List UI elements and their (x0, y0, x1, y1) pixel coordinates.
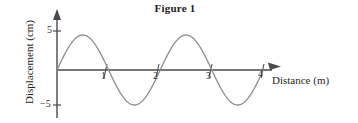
y-axis-title: Displacement (cm) (23, 6, 35, 118)
x-axis-arrowhead (268, 63, 281, 71)
y-tick-label-5: 5 (47, 24, 52, 35)
x-tick-label-4: 4 (258, 68, 263, 79)
y-axis-arrowhead (53, 9, 61, 20)
x-tick-label-2: 2 (153, 70, 158, 81)
figure-container: Figure 1 5 −5 1 2 3 4 Displacement (cm) … (0, 0, 358, 123)
wave-plot (0, 0, 358, 123)
x-tick-label-1: 1 (101, 70, 106, 81)
y-tick-label-minus-5: −5 (40, 98, 51, 109)
x-tick-label-3: 3 (206, 70, 211, 81)
x-axis-title: Distance (m) (272, 74, 329, 86)
